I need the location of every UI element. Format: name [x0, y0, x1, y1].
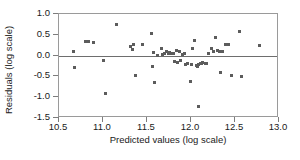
data-point: [153, 81, 156, 84]
data-point: [73, 66, 76, 69]
data-point: [92, 41, 95, 44]
data-point: [221, 50, 224, 53]
data-point: [72, 50, 75, 53]
data-point: [179, 59, 182, 62]
x-axis-tick-label: 10.5: [38, 121, 78, 132]
data-point: [214, 36, 217, 39]
y-axis-tick-label: -1.0: [14, 91, 50, 101]
data-point: [193, 39, 196, 42]
data-point: [104, 92, 107, 95]
data-point: [161, 53, 164, 56]
data-point: [156, 54, 159, 57]
data-point: [189, 80, 192, 83]
zero-reference-line: [59, 56, 277, 57]
data-point: [207, 52, 210, 55]
data-point: [150, 32, 153, 35]
x-axis-tick-label: 13.0: [258, 121, 298, 132]
data-point: [227, 43, 230, 46]
data-point: [87, 40, 90, 43]
y-axis-tick-label: 0.0: [14, 50, 50, 60]
data-point: [197, 105, 200, 108]
data-point: [175, 49, 178, 52]
residual-scatter-chart: Residuals (log scale) 1.00.50.0-0.5-1.0-…: [0, 0, 300, 160]
data-point: [151, 65, 154, 68]
y-axis-tick-label: 1.0: [14, 8, 50, 18]
data-point: [190, 63, 193, 66]
data-point: [230, 74, 233, 77]
data-point: [205, 62, 208, 65]
data-point: [152, 51, 155, 54]
data-point: [132, 43, 135, 46]
data-point: [141, 43, 144, 46]
data-point: [172, 52, 175, 55]
data-point: [191, 47, 194, 50]
y-axis-tick-label: -0.5: [14, 70, 50, 80]
x-axis-title: Predicted values (log scale): [58, 134, 278, 145]
plot-area: [58, 13, 278, 117]
data-point: [102, 59, 105, 62]
data-point: [131, 48, 134, 51]
data-point: [240, 75, 243, 78]
x-axis-tick-label: 11.5: [126, 121, 166, 132]
x-axis-tick-label: 12.0: [170, 121, 210, 132]
data-point: [115, 23, 118, 26]
data-point: [134, 74, 137, 77]
data-point: [219, 71, 222, 74]
data-point: [183, 52, 186, 55]
x-axis-tick-label: 12.5: [214, 121, 254, 132]
y-axis-tick-label: 0.5: [14, 29, 50, 39]
data-point: [238, 30, 241, 33]
x-axis-tick-label: 11.0: [82, 121, 122, 132]
data-point: [258, 44, 261, 47]
data-point: [160, 47, 163, 50]
